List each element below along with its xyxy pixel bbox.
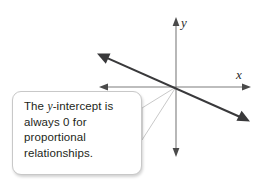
x-axis-label: x	[236, 68, 242, 81]
callout-bubble: The y-intercept isalways 0 forproportion…	[12, 91, 142, 175]
figure-canvas: y x The y-intercept isalways 0 forpropor…	[0, 0, 267, 186]
y-axis-label: y	[181, 16, 187, 29]
callout-text-line: The y-intercept is	[24, 99, 136, 115]
callout-text: The y-intercept isalways 0 forproportion…	[24, 99, 136, 161]
callout-pointer-tail	[142, 87, 176, 140]
callout-text-line: relationships.	[24, 146, 136, 162]
callout-text-line: proportional	[24, 130, 136, 146]
callout-text-line: always 0 for	[24, 115, 136, 131]
